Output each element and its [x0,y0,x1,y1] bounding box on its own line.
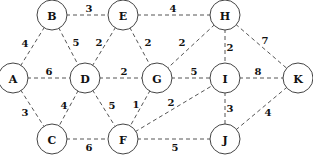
node-label: K [293,73,303,86]
node-k: K [283,63,313,93]
node-i: I [210,63,240,93]
node-label: F [119,134,127,147]
node-label: H [220,10,230,23]
edge-weight-label: 6 [86,142,93,153]
edge-weight-label: 5 [172,142,179,153]
edge-weight-label: 4 [61,100,68,111]
edge-weight-label: 2 [168,97,175,108]
edge-weight-label: 3 [86,3,93,14]
weighted-graph-diagram: 4345222276258345126534 ABCDEFGHIJK [0,0,313,159]
node-label: D [80,73,90,86]
node-label: I [222,73,227,86]
node-e: E [108,0,138,30]
edge-weight-label: 2 [121,66,128,77]
node-j: J [210,124,240,154]
edge-weight-label: 5 [73,37,80,48]
edge-weight-label: 4 [22,38,29,49]
edge-weight-label: 2 [145,37,152,48]
node-label: E [119,10,127,23]
edge-weight-label: 7 [262,35,269,46]
node-f: F [108,124,138,154]
edge-weight-label: 1 [133,99,140,110]
edge-weight-label: 6 [46,66,53,77]
edge-weight-label: 3 [22,107,29,118]
node-label: J [221,134,227,147]
node-label: B [47,10,56,23]
edge-weight-label: 5 [191,66,198,77]
edge-weight-label: 3 [227,103,234,114]
node-label: A [8,73,18,86]
node-label: C [48,134,57,147]
edge-weight-label: 2 [227,42,234,53]
node-h: H [210,0,240,30]
node-c: C [37,124,67,154]
edge-weight-label: 5 [109,100,116,111]
node-layer: ABCDEFGHIJK [0,0,313,154]
node-g: G [142,63,172,93]
node-b: B [37,0,67,30]
edge-weight-label: 2 [179,37,186,48]
edge-weight-label: 4 [170,3,177,14]
edge-weight-label: 2 [96,37,103,48]
edge-weight-label: 8 [255,66,262,77]
node-d: D [70,63,100,93]
node-a: A [0,63,28,93]
edge-weight-label: 4 [265,107,272,118]
node-label: G [152,73,161,86]
